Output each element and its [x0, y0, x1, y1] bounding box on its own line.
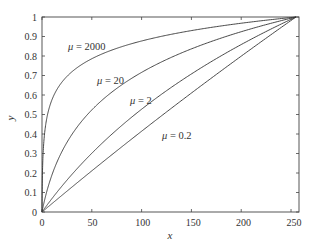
- y-tick-label: 0.5: [25, 109, 38, 120]
- chart: 0 50 100 150 200 250 0 0.1 0.2 0.3 0.4 0…: [0, 0, 317, 248]
- y-tick-label: 0: [32, 207, 37, 218]
- y-axis-label: y: [4, 115, 16, 121]
- x-tick-label: 200: [236, 217, 251, 228]
- x-tick-label: 100: [135, 217, 150, 228]
- annotation-mu-0-2: μ = 0.2: [161, 130, 192, 141]
- y-tick-label: 0.8: [25, 51, 38, 62]
- x-axis-label: x: [167, 229, 173, 241]
- y-tick-label: 1: [32, 12, 37, 23]
- y-tick-label: 0.9: [25, 31, 38, 42]
- x-tick-label: 0: [40, 217, 45, 228]
- y-tick-label: 0.3: [25, 148, 38, 159]
- x-tick-label: 50: [87, 217, 97, 228]
- y-tick-label: 0.6: [25, 90, 38, 101]
- y-tick-label: 0.2: [25, 168, 38, 179]
- y-tick-label: 0.4: [25, 129, 38, 140]
- y-tick-label: 0.7: [25, 70, 38, 81]
- y-tick-labels: 0 0.1 0.2 0.3 0.4 0.5 0.6 0.7 0.8 0.9 1: [25, 12, 38, 218]
- annotation-mu-2000: μ = 2000: [67, 41, 105, 52]
- x-tick-label: 250: [287, 217, 302, 228]
- x-tick-label: 150: [186, 217, 201, 228]
- annotation-mu-2: μ = 2: [129, 95, 152, 106]
- x-tick-labels: 0 50 100 150 200 250: [40, 217, 302, 228]
- annotation-mu-20: μ = 20: [96, 75, 124, 86]
- y-tick-label: 0.1: [25, 187, 38, 198]
